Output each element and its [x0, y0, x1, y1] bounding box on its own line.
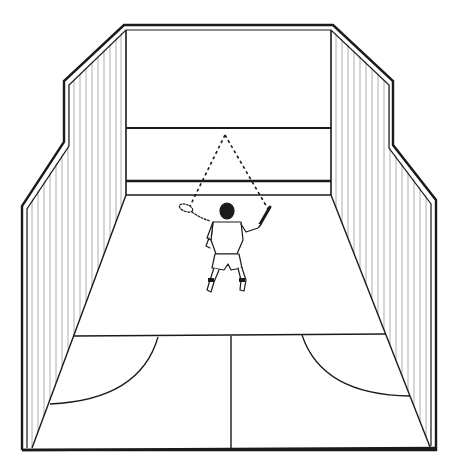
- right-service-box-arc: [302, 335, 410, 396]
- floor-right-edge: [331, 195, 430, 447]
- front-wall: [126, 30, 331, 195]
- short-line: [74, 334, 386, 336]
- player-ready-stance: [178, 202, 270, 292]
- dashed-ball-trajectory-triangle: [190, 135, 268, 209]
- right-racket-icon: [259, 207, 270, 226]
- squash-court-figure: [0, 0, 458, 472]
- left-service-box-arc: [50, 337, 158, 404]
- player-head: [220, 203, 234, 219]
- floor-left-edge: [32, 195, 126, 448]
